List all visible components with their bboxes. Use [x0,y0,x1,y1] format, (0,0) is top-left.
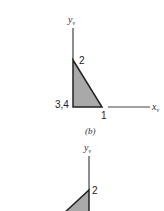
caption-b: (b) [85,126,96,136]
triangle-element-b [73,60,102,107]
y-axis-label-b: yv [67,14,75,26]
element-diagrams: yv xv 2 3,4 1 (b) yv 2 [0,0,164,211]
triangle-element-c [62,190,89,211]
node-label-2-c: 2 [92,185,98,196]
node-label-2-b: 2 [79,55,85,66]
node-label-34-b: 3,4 [55,99,69,110]
node-label-1-b: 1 [101,110,107,121]
figure-b: yv xv 2 3,4 1 (b) [55,14,159,136]
x-axis-label-b: xv [151,101,159,113]
y-axis-label-c: yv [83,142,91,154]
figure-c: yv 2 [62,142,98,211]
